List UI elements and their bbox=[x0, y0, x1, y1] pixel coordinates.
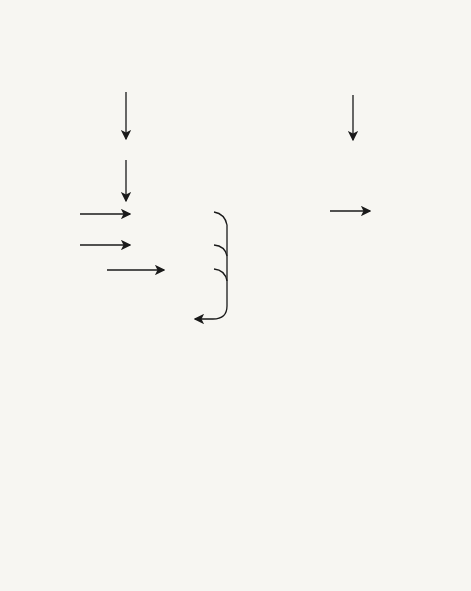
connector-arrows bbox=[0, 0, 471, 591]
